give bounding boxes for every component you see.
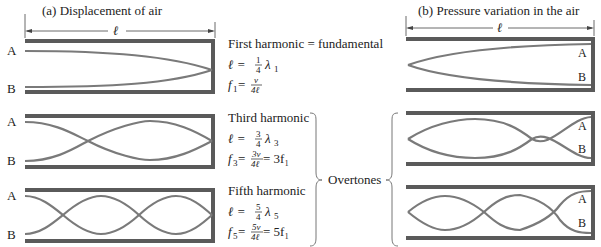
end-label-a: A	[578, 119, 587, 133]
fraction-numerator: 1	[256, 55, 261, 65]
lambda-subscript: 1	[274, 64, 279, 74]
equals: =	[238, 151, 245, 166]
fraction-numerator: 5v	[252, 222, 261, 232]
end-label-b: B	[7, 81, 16, 96]
end-label-b: B	[578, 216, 586, 230]
fraction-denominator: 4ℓ	[251, 85, 260, 95]
pipe-b-third-harmonic: A B	[406, 111, 595, 166]
end-label-b: B	[7, 153, 16, 168]
frequency-subscript: 1	[233, 84, 238, 94]
equals: =	[238, 77, 245, 92]
frequency-rhs: = 5f₁	[263, 224, 289, 239]
left-brace	[310, 113, 322, 246]
lambda-subscript: 5	[274, 211, 279, 221]
end-label-a: A	[578, 192, 587, 206]
panel-b-length-dimension: ℓ	[406, 16, 594, 36]
formula-fifth-harmonic: Fifth harmonic ℓ = 5 4 λ 5 f 5 = 5v 4ℓ =…	[228, 183, 306, 242]
fraction-numerator: v	[254, 75, 258, 85]
formula-first-harmonic: First harmonic = fundamental ℓ = 1 4 λ 1…	[228, 36, 383, 95]
fraction-denominator: 4	[256, 139, 261, 149]
frequency-rhs: = 3f₁	[263, 151, 289, 166]
fraction-numerator: 3v	[251, 149, 261, 159]
fraction-denominator: 4	[256, 212, 261, 222]
fraction-numerator: 5	[256, 202, 261, 212]
overtones-label: Overtones	[328, 172, 381, 187]
diagram-canvas: (a) Displacement of air ℓ A B A B	[0, 0, 601, 247]
length-lhs: ℓ =	[228, 57, 245, 72]
fraction-denominator: 4	[256, 65, 261, 75]
end-label-a: A	[7, 188, 17, 203]
pipe-b-fifth-harmonic: A B	[406, 185, 595, 240]
fraction-denominator: 4ℓ	[251, 232, 260, 242]
lambda-symbol: λ	[264, 131, 271, 146]
fraction-denominator: 4ℓ	[251, 159, 260, 169]
end-label-b: B	[578, 70, 586, 84]
fraction-numerator: 3	[256, 129, 261, 139]
harmonic-name: Fifth harmonic	[228, 183, 306, 198]
length-lhs: ℓ =	[228, 131, 245, 146]
lambda-symbol: λ	[264, 57, 271, 72]
end-label-a: A	[7, 43, 17, 58]
panel-a-title: (a) Displacement of air	[42, 3, 163, 18]
lambda-subscript: 3	[274, 138, 279, 148]
right-brace	[386, 113, 398, 246]
end-label-a: A	[7, 114, 17, 129]
end-label-b: B	[578, 142, 586, 156]
equals: =	[238, 224, 245, 239]
svg-text:First harmonic = fundamental: First harmonic = fundamental	[228, 36, 383, 51]
formula-third-harmonic: Third harmonic ℓ = 3 4 λ 3 f 3 = 3v 4ℓ =…	[228, 110, 309, 169]
panel-b-length-symbol: ℓ	[497, 20, 503, 35]
harmonic-name: Third harmonic	[228, 110, 309, 125]
harmonic-suffix: = fundamental	[304, 36, 383, 51]
panel-a-length-symbol: ℓ	[113, 23, 119, 38]
end-label-b: B	[7, 227, 16, 242]
pipe-b-first-harmonic: A B	[406, 37, 595, 92]
end-label-a: A	[578, 46, 587, 60]
harmonic-name: First harmonic	[228, 36, 304, 51]
length-lhs: ℓ =	[228, 204, 245, 219]
lambda-symbol: λ	[264, 204, 271, 219]
pipe-a-fifth-harmonic: A B	[7, 188, 215, 243]
pipe-a-first-harmonic: A B	[7, 39, 215, 96]
panel-b-title: (b) Pressure variation in the air	[418, 3, 580, 18]
pipe-a-third-harmonic: A B	[7, 114, 215, 169]
